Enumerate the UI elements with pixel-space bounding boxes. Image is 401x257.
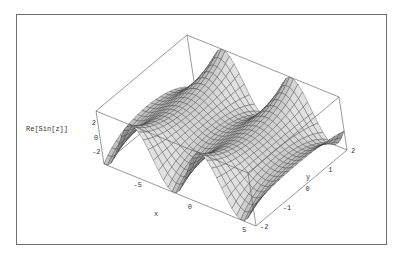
x-tick-label: 5	[242, 226, 246, 234]
box-edge	[339, 97, 347, 150]
y-tick-label: 1	[328, 166, 332, 174]
surface-plot: 20-2-505-2-1012 Re[Sin[z]] x y	[17, 15, 388, 246]
y-tick-label: 0	[306, 185, 310, 193]
x-tick-label: -5	[134, 181, 142, 189]
y-axis-label: y	[306, 173, 310, 181]
z-axis-label: Re[Sin[z]]	[26, 125, 68, 133]
z-tick-label: -2	[92, 148, 100, 156]
box-edge	[187, 35, 195, 88]
x-axis-label: x	[154, 210, 158, 218]
y-tick-label: -1	[283, 204, 291, 212]
y-tick-label: -2	[260, 223, 268, 231]
y-tick-label: 2	[351, 147, 355, 155]
x-tick-label: 0	[188, 203, 192, 211]
surface-mesh	[104, 49, 344, 220]
plot-frame: 20-2-505-2-1012 Re[Sin[z]] x y	[16, 14, 387, 245]
z-tick-label: 0	[94, 134, 98, 142]
z-tick-label: 2	[92, 119, 96, 127]
